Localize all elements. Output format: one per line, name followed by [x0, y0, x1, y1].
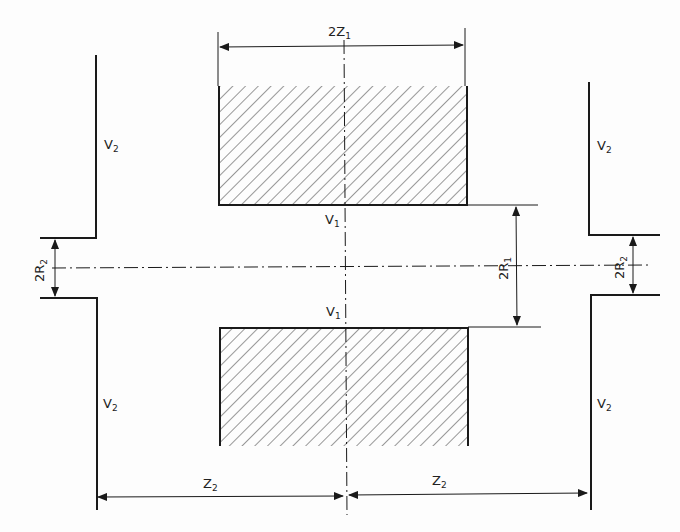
label-v2-bottom-right: V2 [597, 396, 612, 413]
label-v2-bottom-left: V2 [103, 396, 118, 413]
label-2r2-right: 2R2 [612, 256, 629, 279]
label-v2-top-left: V2 [104, 137, 119, 154]
label-2z1: 2Z1 [328, 24, 351, 41]
dimension-z2 [98, 493, 587, 497]
label-z2-right: Z2 [432, 473, 447, 490]
diagram-canvas: 2Z1 V2 V2 V2 V2 V1 V1 2R2 2R2 2R1 Z2 Z2 [0, 0, 680, 532]
lower-electrode [220, 328, 468, 446]
label-2r2-left: 2R2 [32, 259, 49, 282]
label-v1-bottom: V1 [326, 304, 341, 321]
left-outer-electrode [40, 55, 97, 510]
label-z2-left: Z2 [203, 476, 218, 493]
label-2r1: 2R1 [496, 257, 513, 280]
label-v2-top-right: V2 [597, 138, 612, 155]
upper-electrode [219, 86, 467, 205]
label-v1-top: V1 [325, 212, 340, 229]
electrode-diagram: 2Z1 V2 V2 V2 V2 V1 V1 2R2 2R2 2R1 Z2 Z2 [0, 0, 680, 532]
